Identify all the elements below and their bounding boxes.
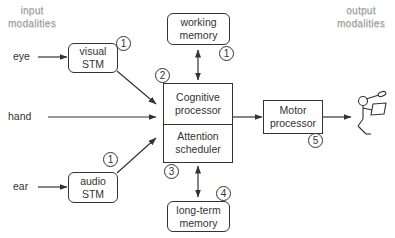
input-header-line2: modalities <box>4 17 60 30</box>
audio-stm-box: audio STM <box>68 172 118 203</box>
cognitive-processor-line1: Cognitive <box>175 91 221 104</box>
visual-stm-badge: 1 <box>116 36 131 51</box>
visual-stm-line1: visual <box>80 45 107 58</box>
motor-processor-line2: processor <box>270 117 316 130</box>
long-term-memory-line1: long-term <box>176 204 220 217</box>
input-hand-label: hand <box>8 110 31 122</box>
input-ear-label: ear <box>13 180 28 192</box>
input-modalities-header: input modalities <box>4 4 60 30</box>
working-memory-line2: memory <box>180 29 218 42</box>
motor-badge: 5 <box>308 133 323 148</box>
cognitive-processor-section: Cognitive processor <box>164 84 232 125</box>
audio-stm-line2: STM <box>82 188 104 201</box>
long-term-memory-box: long-term memory <box>167 201 230 232</box>
output-header-line2: modalities <box>330 17 392 30</box>
output-modalities-header: output modalities <box>330 4 392 30</box>
input-header-line1: input <box>4 4 60 17</box>
cognitive-attention-box: Cognitive processor Attention scheduler <box>163 83 233 163</box>
attention-scheduler-section: Attention scheduler <box>164 124 232 162</box>
audio-stm-badge: 1 <box>103 152 118 167</box>
audio-stm-line1: audio <box>80 175 106 188</box>
attention-badge: 3 <box>164 164 179 179</box>
working-memory-line1: working <box>180 16 216 29</box>
stick-figure-writing-icon <box>358 91 387 134</box>
attention-scheduler-line2: scheduler <box>175 143 221 156</box>
visual-stm-to-cognitive-arrow <box>117 71 156 104</box>
audio-stm-to-cognitive-arrow <box>117 138 156 173</box>
cognitive-processor-line2: processor <box>175 104 221 117</box>
cognitive-badge: 2 <box>155 68 170 83</box>
long-term-memory-line2: memory <box>180 217 218 230</box>
visual-stm-line2: STM <box>82 58 104 71</box>
attention-scheduler-line1: Attention <box>175 130 221 143</box>
working-memory-badge: 1 <box>219 46 234 61</box>
working-memory-box: working memory <box>167 13 230 45</box>
input-eye-label: eye <box>13 50 30 62</box>
long-term-memory-badge: 4 <box>216 186 231 201</box>
motor-processor-box: Motor processor <box>263 100 323 134</box>
visual-stm-box: visual STM <box>68 43 118 73</box>
motor-processor-line1: Motor <box>280 104 307 117</box>
output-header-line1: output <box>330 4 392 17</box>
